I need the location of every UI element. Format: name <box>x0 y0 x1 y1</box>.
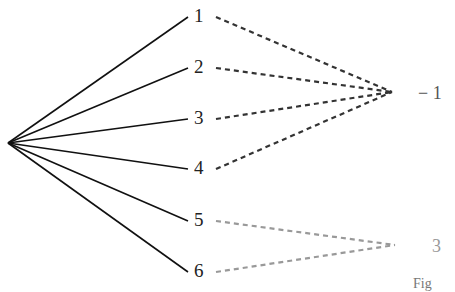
branch-line-6 <box>8 143 188 272</box>
figure-caption: Fig <box>413 276 432 292</box>
mapping-line-6 <box>216 245 395 272</box>
outcome-label-3: 3 <box>194 108 204 127</box>
branch-line-5 <box>8 143 188 221</box>
outcome-label-1: 1 <box>194 6 204 25</box>
result-label-minus-one: − 1 <box>418 84 442 102</box>
mapping-line-1 <box>216 17 392 92</box>
mapping-line-3 <box>216 92 392 119</box>
result-label-three: 3 <box>432 237 441 255</box>
mapping-line-5 <box>216 221 395 245</box>
outcome-label-5: 5 <box>194 210 204 229</box>
outcome-label-4: 4 <box>194 158 204 177</box>
branch-line-4 <box>8 143 188 169</box>
outcome-label-6: 6 <box>194 261 204 280</box>
mapping-line-4 <box>216 92 392 169</box>
outcome-label-2: 2 <box>194 57 204 76</box>
